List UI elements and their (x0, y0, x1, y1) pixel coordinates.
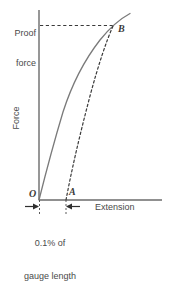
dimension-left-arrow-head (33, 204, 39, 210)
y-axis-label: Force (11, 90, 21, 146)
proof-force-label: Proof force (0, 8, 36, 78)
proof-force-label-line1: Proof (0, 28, 36, 38)
point-label-b: B (118, 23, 125, 34)
proof-force-label-line2: force (0, 58, 36, 68)
gauge-length-note: 0.1% of gauge length (8, 216, 92, 285)
force-extension-curve (39, 14, 130, 201)
dimension-right-arrow-head (66, 204, 72, 210)
point-label-a: A (69, 186, 76, 197)
gauge-length-note-line2: gauge length (8, 271, 92, 282)
offset-proof-dashed-line (66, 26, 113, 200)
x-axis-label: Extension (95, 202, 135, 212)
gauge-length-note-line1: 0.1% of (8, 238, 92, 249)
point-label-origin: O (29, 188, 36, 199)
